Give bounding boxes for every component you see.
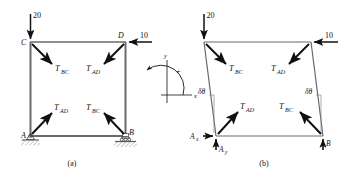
force-tbc-upper-b-sub: BC xyxy=(235,69,244,75)
reaction-ax-label: A xyxy=(189,132,195,141)
reaction-ax-sub: x xyxy=(195,136,199,142)
load-20-label-a: 20 xyxy=(33,11,41,20)
force-tad-at-d-sub: AD xyxy=(91,69,101,75)
joint-label-a: A xyxy=(20,131,26,140)
joint-label-b: B xyxy=(129,128,134,137)
reaction-ay-sub: y xyxy=(224,149,228,155)
joint-label-d: D xyxy=(117,31,124,40)
caption-a: (a) xyxy=(68,159,77,168)
axis-x-label: x xyxy=(193,92,197,99)
caption-b: (b) xyxy=(259,159,269,168)
axis-y-label: y xyxy=(163,52,167,59)
joint-label-c: C xyxy=(21,38,27,47)
force-tbc-lower-b-sub: BC xyxy=(285,107,294,113)
positive-sign-label: + xyxy=(176,67,181,76)
load-20-label-b: 20 xyxy=(207,11,215,20)
reaction-b-label: B xyxy=(326,139,331,148)
engineering-figure: 20 10 C D A B T BC T AD T AD xyxy=(0,0,343,178)
virtual-angle-right-label: δθ xyxy=(305,87,312,96)
load-10-label-a: 10 xyxy=(140,31,148,40)
force-tbc-at-c-sub: BC xyxy=(61,69,70,75)
force-tad-at-a-sub: AD xyxy=(59,108,69,114)
load-10-label-b: 10 xyxy=(325,31,333,40)
force-tad-upper-b-sub: AD xyxy=(276,69,286,75)
force-tad-lower-b-sub: AD xyxy=(245,107,255,113)
force-tbc-at-b-sub: BC xyxy=(92,108,101,114)
reaction-ay-label: A xyxy=(218,145,224,154)
virtual-angle-left-label: δθ xyxy=(198,87,205,96)
